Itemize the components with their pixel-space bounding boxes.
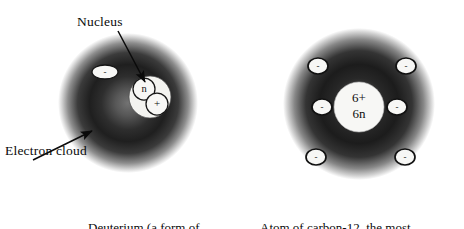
caption-deuterium: Deuterium (a form of hydrogen): [88, 189, 200, 229]
proton-label: +: [154, 97, 160, 109]
diagram-canvas: - n + - -: [0, 0, 464, 229]
electron-charge-sign: -: [404, 152, 407, 162]
electron-carbon-1: -: [308, 58, 328, 74]
caption-carbon: Atom of carbon-12, the most common form …: [260, 189, 411, 229]
nucleus-neutron-label: 6n: [353, 106, 367, 121]
nucleus-charge-label: 6+: [352, 90, 366, 105]
nucleus-annotation-label: Nucleus: [77, 14, 123, 30]
electron-charge-sign: -: [317, 61, 320, 71]
electron-charge-sign: -: [315, 152, 318, 162]
electron-charge-sign: -: [321, 102, 324, 112]
electron-charge-sign: -: [405, 61, 408, 71]
electron-charge-sign: -: [104, 67, 107, 77]
electron-cloud-annotation-label: Electron cloud: [5, 143, 87, 159]
caption-deuterium-line-1: Deuterium (a form of: [88, 220, 200, 229]
electron-carbon-5: -: [306, 149, 326, 165]
electron-charge-sign: -: [396, 102, 399, 112]
electron-carbon-6: -: [395, 149, 415, 165]
nucleus-deuterium: n +: [129, 76, 171, 118]
caption-carbon-line-1: Atom of carbon-12, the most: [260, 220, 411, 229]
electron-carbon-3: -: [312, 99, 332, 115]
atom-carbon-12: - - - - - - 6: [283, 28, 435, 180]
nucleus-carbon: 6+ 6n: [334, 82, 384, 132]
electron-deuterium-1: -: [92, 65, 118, 79]
neutron-label: n: [141, 83, 147, 94]
electron-carbon-4: -: [387, 99, 407, 115]
electron-carbon-2: -: [396, 58, 416, 74]
